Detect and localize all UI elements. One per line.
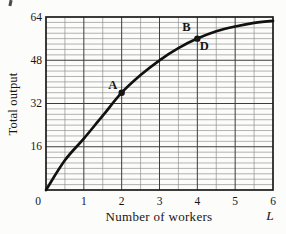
point-label-B: B [182,20,190,34]
chart-canvas: ABD012345616324864 [0,0,286,234]
x-tick-label-1: 1 [81,195,87,207]
x-axis-title: Number of workers [106,209,213,225]
point-label-A: A [108,78,117,92]
point-label-D: D [200,39,209,53]
x-tick-label-6: 6 [270,195,276,207]
x-tick-label-4: 4 [194,195,200,207]
y-tick-label-64: 64 [31,11,43,23]
x-tick-label-5: 5 [232,195,238,207]
y-tick-label-32: 32 [31,97,43,109]
production-function-figure: ABD012345616324864 Total output Number o… [0,0,286,234]
x-tick-label-3: 3 [157,195,163,207]
point-dot-A [118,89,124,95]
x-tick-label-0: 0 [35,195,41,207]
y-tick-label-48: 48 [31,54,43,66]
x-tick-label-2: 2 [119,195,125,207]
y-tick-label-16: 16 [31,140,43,152]
y-axis-title: Total output [6,73,21,136]
x-axis-symbol-L: L [266,208,274,224]
